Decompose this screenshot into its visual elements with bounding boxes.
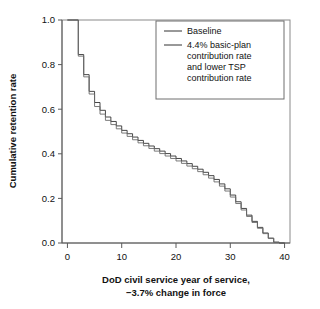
x-tick-label: 20 (171, 251, 182, 262)
x-tick-label: 10 (116, 251, 127, 262)
legend: Baseline4.4% basic-plancontribution rate… (156, 21, 284, 99)
y-axis: 0.00.20.40.60.81.0 (42, 14, 62, 248)
y-tick-label: 0.6 (42, 104, 55, 115)
x-tick-label: 40 (279, 251, 290, 262)
x-axis-title-line2: −3.7% change in force (126, 287, 226, 298)
legend-label-2-line-2: contribution rate (187, 51, 252, 61)
y-axis-title: Cumulative retention rate (7, 74, 18, 189)
chart-container: 0.00.20.40.60.81.0 010203040 Cumulative … (0, 0, 320, 309)
y-tick-label: 0.2 (42, 193, 55, 204)
retention-step-chart: 0.00.20.40.60.81.0 010203040 Cumulative … (0, 0, 320, 309)
legend-label-2-line-1: 4.4% basic-plan (187, 40, 251, 50)
y-tick-label: 1.0 (42, 14, 55, 25)
legend-label-2-line-4: contribution rate (187, 73, 252, 83)
y-tick-label: 0.0 (42, 237, 55, 248)
y-axis-title-text: Cumulative retention rate (7, 74, 18, 189)
legend-label-1-line-1: Baseline (187, 26, 222, 36)
x-tick-label: 30 (225, 251, 236, 262)
x-axis-title: DoD civil service year of service, −3.7%… (102, 274, 250, 298)
x-axis: 010203040 (62, 243, 290, 262)
legend-label-2-line-3: and lower TSP (187, 62, 246, 72)
y-tick-label: 0.8 (42, 59, 55, 70)
x-tick-label: 0 (65, 251, 70, 262)
x-axis-title-line1: DoD civil service year of service, (102, 274, 250, 285)
y-tick-label: 0.4 (42, 148, 55, 159)
